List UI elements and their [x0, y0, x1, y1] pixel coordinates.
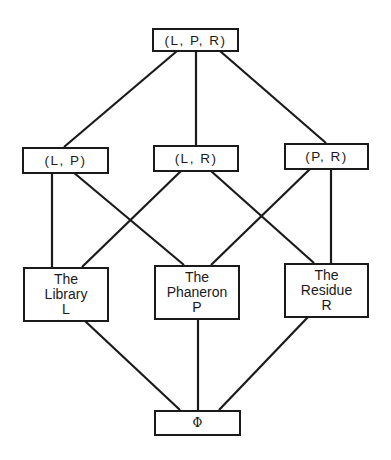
node-pr: (P, R) — [284, 143, 369, 170]
edge-lpr-pr — [220, 51, 326, 143]
node-residue-line-3: R — [321, 298, 331, 313]
edge-lp-phaneron — [73, 172, 184, 265]
node-phaneron-line-3: P — [192, 300, 201, 315]
edge-lr-library — [82, 171, 181, 267]
node-phaneron-line-1: The — [185, 270, 209, 285]
node-lp-label: (L, P) — [44, 153, 86, 168]
node-library-line-3: L — [62, 302, 70, 317]
node-lr: (L, R) — [153, 145, 239, 172]
lattice-diagram: (L, P, R) (L, P) (L, R) (P, R) The Libra… — [0, 0, 391, 460]
node-lr-label: (L, R) — [175, 151, 218, 166]
node-lpr-label: (L, P, R) — [164, 33, 226, 48]
node-library: The Library L — [23, 267, 109, 322]
node-pr-label: (P, R) — [305, 149, 348, 164]
node-lp: (L, P) — [22, 147, 109, 174]
edges-layer — [0, 0, 391, 460]
node-phaneron: The Phaneron P — [154, 265, 240, 320]
node-phi-label: Φ — [193, 416, 203, 431]
node-phi: Φ — [154, 410, 241, 436]
node-residue-line-1: The — [314, 268, 338, 283]
node-residue-line-2: Residue — [301, 283, 352, 298]
edge-residue-phi — [219, 317, 308, 410]
node-library-line-2: Library — [45, 287, 88, 302]
node-residue: The Residue R — [284, 263, 369, 318]
node-phaneron-line-2: Phaneron — [167, 285, 228, 300]
edge-library-phi — [85, 321, 180, 410]
edge-lpr-lp — [64, 51, 177, 147]
node-lpr: (L, P, R) — [152, 28, 239, 52]
node-library-line-1: The — [54, 272, 78, 287]
